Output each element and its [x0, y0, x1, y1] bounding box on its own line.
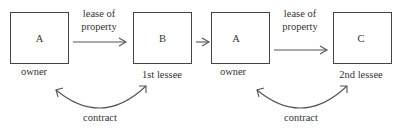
contract-label: contract [284, 112, 318, 123]
node-label: C [357, 33, 364, 44]
lease-diagram: A owner lease of property B 1st lessee A… [0, 0, 398, 128]
node-label: A [232, 33, 240, 44]
node-a-owner: A owner [11, 13, 69, 78]
node-b-first-lessee: B 1st lessee [134, 13, 192, 81]
node-c-second-lessee: C 2nd lessee [334, 13, 392, 81]
node-a2-owner: A owner [212, 13, 270, 78]
node-caption: owner [220, 66, 247, 77]
contract-a-b: contract [56, 86, 146, 123]
edge-lease-a2-c: lease of property [274, 8, 327, 50]
node-label: B [159, 33, 166, 44]
contract-a2-c: contract [257, 86, 347, 123]
edge-label-line1: lease of [284, 8, 317, 19]
node-label: A [36, 33, 44, 44]
edge-label-line2: property [81, 21, 117, 32]
node-caption: 1st lessee [142, 69, 182, 80]
edge-label-line1: lease of [83, 8, 116, 19]
curved-double-arrow-icon [257, 86, 347, 108]
curved-double-arrow-icon [56, 86, 146, 108]
node-caption: owner [21, 66, 48, 77]
edge-label-line2: property [282, 21, 318, 32]
edge-lease-a-b: lease of property [73, 8, 126, 42]
contract-label: contract [83, 112, 117, 123]
node-caption: 2nd lessee [339, 69, 383, 80]
